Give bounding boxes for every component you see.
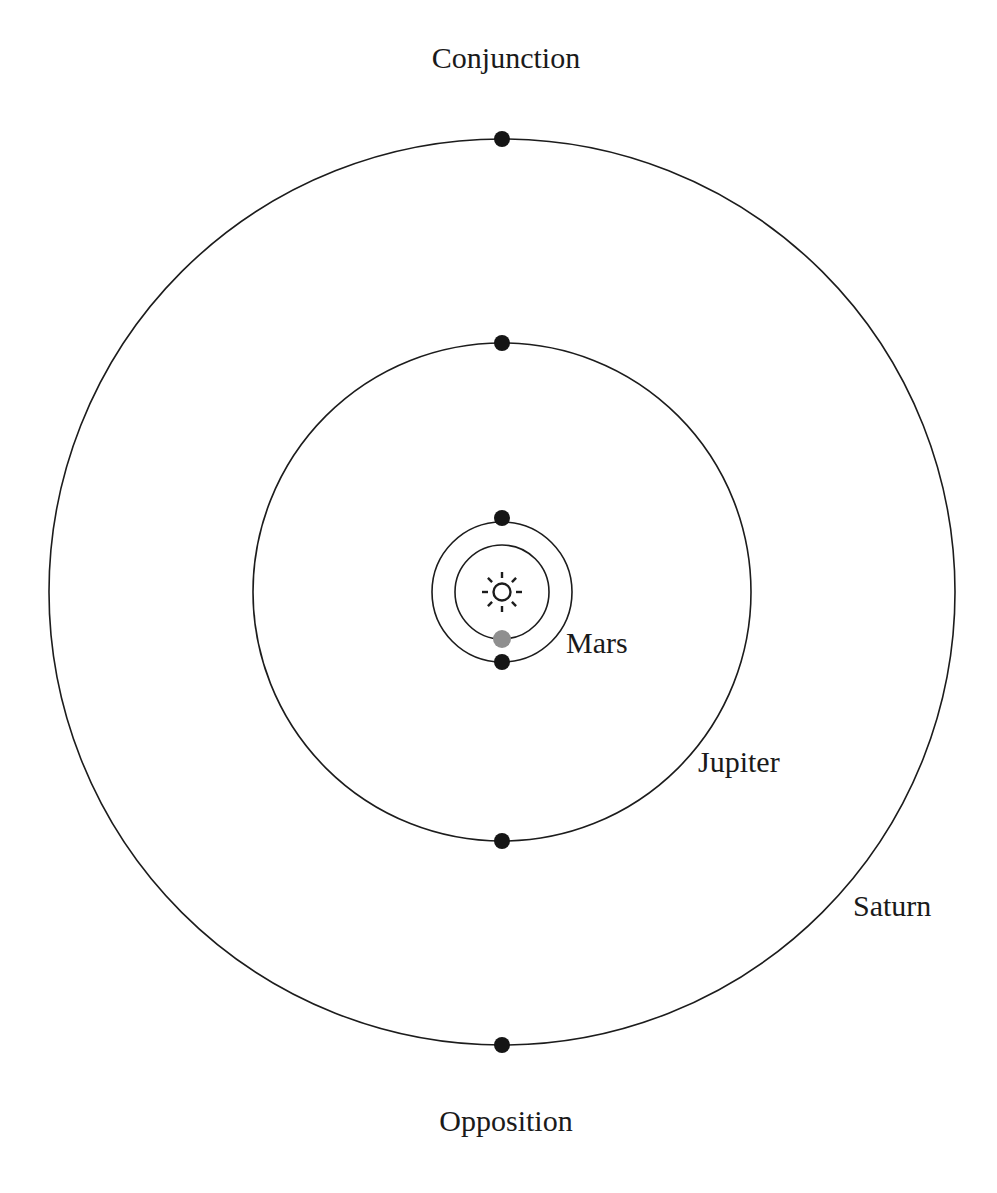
marker-jupiter-conjunction [494,335,510,351]
label-jupiter: Jupiter [698,745,780,778]
orbit-circle-jupiter [253,343,751,841]
orbit-circle-earth [455,545,549,639]
orbit-canvas: Conjunction Opposition Mars Jupiter Satu… [0,0,997,1193]
label-mars: Mars [566,626,628,659]
marker-jupiter-opposition [494,833,510,849]
orbital-diagram: Conjunction Opposition Mars Jupiter Satu… [0,0,997,1193]
label-conjunction: Conjunction [432,41,580,74]
marker-mars-conjunction [494,510,510,526]
orbit-circle-saturn [49,139,955,1045]
label-saturn: Saturn [853,889,931,922]
sun-icon [482,572,522,612]
marker-saturn-opposition [494,1037,510,1053]
marker-mars-opposition [494,654,510,670]
marker-earth [493,630,511,648]
marker-saturn-conjunction [494,131,510,147]
label-opposition: Opposition [439,1104,572,1137]
